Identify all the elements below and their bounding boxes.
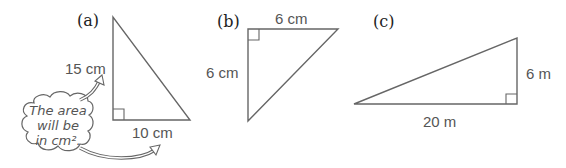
triangle-a: (a) 15 cm 10 cm The area will be in cm². (22, 11, 190, 158)
cloud-text-line-3: in cm². (35, 133, 80, 148)
triangle-b-shape (248, 29, 338, 121)
triangle-a-shape (113, 17, 190, 120)
right-angle-marker-b (248, 29, 259, 40)
label-a: (a) (77, 11, 99, 30)
right-angle-marker-c (506, 94, 517, 104)
measure-a-base: 10 cm (132, 124, 173, 141)
cloud-text-line-1: The area (29, 103, 87, 118)
cloud-text-line-2: will be (37, 118, 79, 133)
measure-b-top: 6 cm (275, 10, 308, 27)
triangles-figure: (a) 15 cm 10 cm The area will be in cm².… (0, 0, 566, 168)
measure-b-height: 6 cm (206, 64, 239, 81)
arrow-to-height-icon (80, 80, 100, 100)
figure-canvas: (a) 15 cm 10 cm The area will be in cm².… (0, 0, 566, 168)
label-b: (b) (217, 12, 240, 31)
right-angle-marker-a (113, 109, 124, 120)
triangle-b: (b) 6 cm 6 cm (206, 10, 338, 121)
label-c: (c) (373, 12, 394, 31)
measure-a-height: 15 cm (65, 60, 106, 77)
triangle-c: (c) 6 m 20 m (354, 12, 551, 130)
measure-c-base: 20 m (423, 113, 456, 130)
measure-c-height: 6 m (526, 65, 551, 82)
triangle-c-shape (354, 38, 517, 104)
